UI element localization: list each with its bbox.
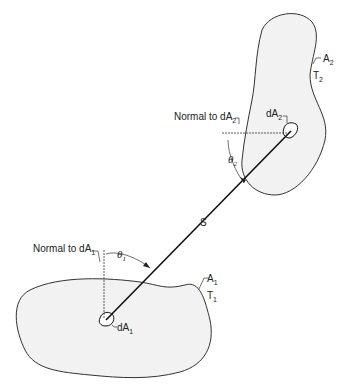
label-theta2: θ2 [228,153,237,168]
a2-leader [313,58,321,64]
label-theta1: θ1 [117,248,126,263]
label-normal-da1: Normal to dA1 [33,243,95,256]
label-t1: T1 [207,290,217,303]
label-a2: A2 [323,53,334,66]
radiation-diagram: A2 T2 dA2 Normal to dA2 θ2 S Normal to d… [0,0,337,388]
label-normal-da2: Normal to dA2 [174,111,236,124]
label-s: S [200,217,207,228]
theta1-arrow-icon [143,262,150,268]
label-t2: T2 [313,70,323,83]
label-a1: A1 [207,273,218,286]
surface-a1 [16,279,211,378]
